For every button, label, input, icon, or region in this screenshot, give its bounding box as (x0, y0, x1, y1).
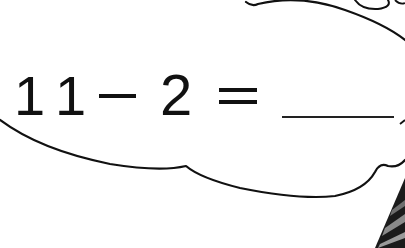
equals-sign-bottom (219, 100, 257, 104)
equals-sign-top: = (219, 88, 257, 92)
answer-blank[interactable]: ______ (282, 116, 394, 118)
minus-sign: − (99, 94, 136, 98)
sleeve-illustration (375, 178, 405, 248)
operand-2: 2 (160, 66, 192, 124)
operand-1: 11 (14, 68, 100, 124)
worksheet-canvas: 11 − 2 = ______ (0, 0, 405, 248)
